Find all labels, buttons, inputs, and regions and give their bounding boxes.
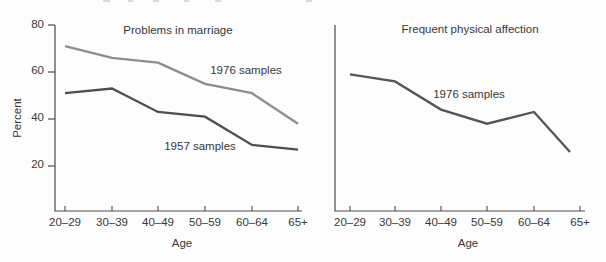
x-tick-label: 65+ <box>570 217 590 229</box>
two-panel-line-chart-figure: Percent 80 60 40 20 Problems in marriage… <box>0 0 606 262</box>
x-tick-label: 20–29 <box>334 217 366 229</box>
x-tick-label: 20–29 <box>49 217 81 229</box>
left-1976-series-label: 1976 samples <box>210 65 282 77</box>
left-panel-title: Problems in marriage <box>123 25 232 37</box>
y-tick-label-40: 40 <box>0 112 44 124</box>
right-panel-title: Frequent physical affection <box>401 24 538 36</box>
left-x-axis-title: Age <box>172 238 192 250</box>
x-tick-label: 65+ <box>288 217 308 229</box>
right-1976-series-label: 1976 samples <box>433 89 505 101</box>
x-tick-label: 30–39 <box>379 217 411 229</box>
x-tick-label: 60–64 <box>236 217 268 229</box>
x-tick-label: 50–59 <box>471 217 503 229</box>
x-tick-label: 30–39 <box>96 217 128 229</box>
y-tick-label-80: 80 <box>0 19 44 31</box>
y-tick-label-60: 60 <box>0 65 44 77</box>
right-x-axis-title: Age <box>458 238 478 250</box>
series-line-1976-samples <box>65 46 298 124</box>
left-1957-series-label: 1957 samples <box>164 141 236 153</box>
x-tick-label: 40–49 <box>142 217 174 229</box>
x-tick-label: 60–64 <box>518 217 550 229</box>
right-panel-axes <box>335 25 585 211</box>
series-line-1976-samples <box>350 74 570 152</box>
y-tick-label-20: 20 <box>0 159 44 171</box>
x-tick-label: 40–49 <box>425 217 457 229</box>
x-tick-label: 50–59 <box>189 217 221 229</box>
